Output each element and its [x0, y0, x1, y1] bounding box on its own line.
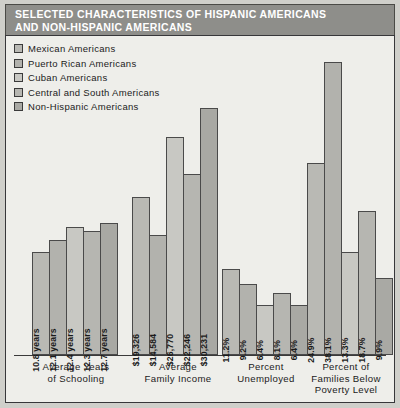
- legend-swatch-icon: [14, 88, 23, 97]
- legend-item: Non-Hispanic Americans: [14, 100, 160, 113]
- legend-item-label: Central and South Americans: [28, 87, 160, 98]
- bar: 24.9%: [307, 163, 325, 355]
- chart-frame: Mexican AmericansPuerto Rican AmericansC…: [5, 35, 395, 403]
- chart-header: SELECTED CHARACTERISTICS OF HISPANIC AME…: [5, 4, 395, 35]
- x-axis-labels: Average Years of Schooling Average Famil…: [6, 358, 394, 402]
- bar: $30,231: [200, 108, 218, 355]
- legend-item-label: Non-Hispanic Americans: [28, 101, 139, 112]
- bar: 18.7%: [358, 211, 376, 355]
- legend-swatch-icon: [14, 44, 23, 53]
- bar: 38.1%: [324, 62, 342, 355]
- bar-group-income: $19,326$14,584$26,770$22,246$30,231: [132, 108, 217, 355]
- legend-item-label: Cuban Americans: [28, 72, 107, 83]
- legend-item: Mexican Americans: [14, 42, 160, 55]
- legend-swatch-icon: [14, 73, 23, 82]
- legend-item-label: Mexican Americans: [28, 43, 115, 54]
- legend-item: Puerto Rican Americans: [14, 57, 160, 70]
- bar: $22,246: [183, 174, 201, 355]
- x-category-label: Percent of Families Below Poverty Level: [289, 361, 400, 396]
- legend-item: Cuban Americans: [14, 71, 160, 84]
- bar: $26,770: [166, 137, 184, 355]
- legend-item: Central and South Americans: [14, 86, 160, 99]
- bar-group-unemployed: 11.2%9.2%6.4%8.1%6.4%: [222, 269, 307, 355]
- legend: Mexican AmericansPuerto Rican AmericansC…: [14, 42, 160, 115]
- bar-group-schooling: 10.8 years12.1 years12.4 years12.3 years…: [32, 223, 117, 355]
- bar-group-poverty: 24.9%38.1%13.3%18.7%9.9%: [307, 62, 392, 355]
- legend-item-label: Puerto Rican Americans: [28, 58, 137, 69]
- legend-swatch-icon: [14, 102, 23, 111]
- bar: 12.7 years: [100, 223, 118, 355]
- bar: $19,326: [132, 197, 150, 355]
- bar: 9.9%: [375, 278, 393, 355]
- legend-swatch-icon: [14, 59, 23, 68]
- chart-page: SELECTED CHARACTERISTICS OF HISPANIC AME…: [0, 0, 400, 408]
- page-title: SELECTED CHARACTERISTICS OF HISPANIC AME…: [15, 8, 394, 33]
